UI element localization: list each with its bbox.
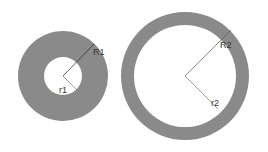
small-annulus: R1 r1 xyxy=(18,31,108,121)
label-r1: r1 xyxy=(59,85,67,95)
outer-radius-line-R2 xyxy=(185,30,231,76)
large-annulus: R2 r2 xyxy=(121,12,249,140)
label-r2: r2 xyxy=(211,98,219,108)
annuli-diagram: R1 r1 R2 r2 xyxy=(0,0,268,152)
label-R2: R2 xyxy=(220,40,232,50)
label-R1: R1 xyxy=(93,47,105,57)
